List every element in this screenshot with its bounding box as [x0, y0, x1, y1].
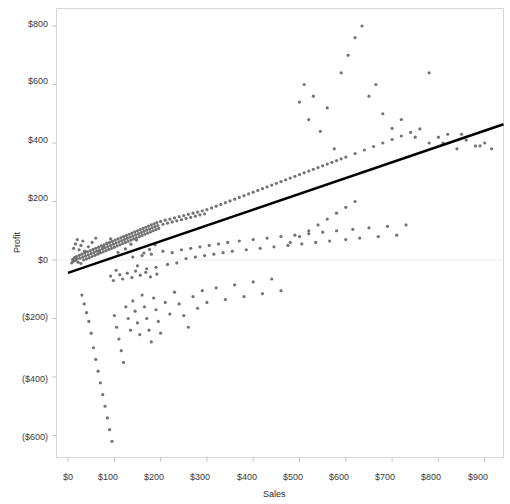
y-tick-label-neg200: ($200)	[6, 312, 48, 322]
x-tick-label-700: $700	[366, 472, 404, 482]
y-tick-label-600: $600	[6, 76, 48, 86]
x-tick-label-0: $0	[52, 472, 84, 482]
x-axis-title: Sales	[263, 489, 286, 499]
y-tick-label-200: $200	[6, 193, 48, 203]
y-tick-label-0: $0	[6, 255, 48, 265]
y-tick-label-400: $400	[6, 135, 48, 145]
y-tick-label-800: $800	[6, 19, 48, 29]
x-tick-label-500: $500	[274, 472, 312, 482]
x-tick-label-600: $600	[320, 472, 358, 482]
y-tick-label-neg400: ($400)	[6, 374, 48, 384]
x-tick-label-200: $200	[135, 472, 173, 482]
x-tick-label-800: $800	[412, 472, 450, 482]
x-tick-label-300: $300	[181, 472, 219, 482]
y-tick-label-neg600: ($600)	[6, 432, 48, 442]
plot-area	[0, 0, 510, 504]
x-tick-label-100: $100	[89, 472, 127, 482]
x-tick-label-400: $400	[228, 472, 266, 482]
y-axis-title: Profit	[12, 232, 22, 253]
scatter-plot-chart: $800 $600 $400 $200 $0 ($200) ($400) ($6…	[0, 0, 510, 504]
plot-frame	[57, 9, 504, 458]
x-tick-label-900: $900	[459, 472, 497, 482]
